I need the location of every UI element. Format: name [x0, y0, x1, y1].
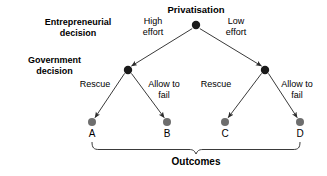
node-left-mid — [124, 66, 132, 74]
decision-tree-diagram: Privatisation Entrepreneurial decision G… — [0, 0, 327, 176]
edge-label-low-effort: Low effort — [218, 16, 254, 38]
leaf-label-c: C — [217, 128, 233, 139]
outcomes-label: Outcomes — [146, 156, 246, 167]
outcomes-bracket — [92, 142, 300, 154]
edge-label-allow-to-fail-right: Allow to fail — [276, 79, 318, 101]
row-label-government-decision: Government decision — [12, 55, 97, 77]
row-label-entrepreneurial-decision: Entrepreneurial decision — [28, 17, 128, 39]
edge-label-high-effort: High effort — [133, 16, 173, 38]
node-leaf-d — [296, 118, 304, 126]
node-leaf-a — [88, 118, 96, 126]
node-right-mid — [261, 66, 269, 74]
leaf-label-b: B — [159, 128, 175, 139]
node-leaf-b — [163, 118, 171, 126]
node-leaf-c — [221, 118, 229, 126]
leaf-label-d: D — [292, 128, 308, 139]
leaf-label-a: A — [84, 128, 100, 139]
edge-label-rescue-left: Rescue — [70, 79, 120, 90]
edge-label-rescue-right: Rescue — [191, 79, 241, 90]
edge-label-allow-to-fail-left: Allow to fail — [143, 79, 185, 101]
root-node-title: Privatisation — [146, 4, 246, 15]
node-root — [192, 21, 200, 29]
